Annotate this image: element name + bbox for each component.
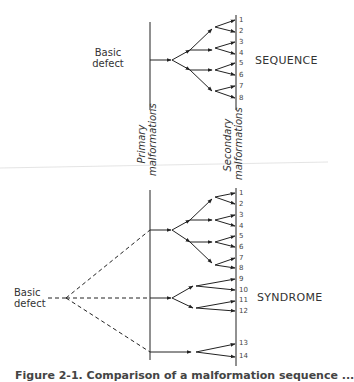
top-outcome-7: 7 <box>239 82 243 90</box>
page-crease <box>0 162 328 168</box>
bottom-outcome-4: 4 <box>239 222 243 230</box>
top-basic-defect-line2: defect <box>86 58 130 69</box>
bottom-outcome-6: 6 <box>239 243 243 251</box>
bottom-outcome-5: 5 <box>239 232 243 240</box>
primary-malformations-label: Primary malformations <box>136 112 158 176</box>
bottom-basic-defect-line1: Basic <box>14 287 46 298</box>
syndrome-tree-c <box>150 344 235 357</box>
top-basic-defect-label: Basic defect <box>86 47 130 69</box>
top-outcome-4: 4 <box>239 49 243 57</box>
top-outcome-1: 1 <box>239 16 243 24</box>
bottom-outcome-1: 1 <box>239 189 243 197</box>
bottom-outcome-7: 7 <box>239 254 243 262</box>
bottom-outcome-11: 11 <box>239 296 248 304</box>
top-outcome-3: 3 <box>239 38 243 46</box>
syndrome-tree-b <box>150 279 235 311</box>
secondary-malformations-label: Secondary malformations <box>222 110 244 180</box>
sequence-label: SEQUENCE <box>255 54 318 67</box>
sequence-tree <box>150 20 235 98</box>
top-outcome-6: 6 <box>239 71 243 79</box>
figure-caption: Figure 2-1. Comparison of a malformation… <box>15 369 354 382</box>
bottom-outcome-9: 9 <box>239 275 243 283</box>
top-outcome-2: 2 <box>239 27 243 35</box>
top-basic-defect-line1: Basic <box>86 47 130 58</box>
syndrome-label: SYNDROME <box>257 291 323 304</box>
bottom-outcome-8: 8 <box>239 264 243 272</box>
bottom-outcome-13: 13 <box>239 339 248 347</box>
bottom-outcome-10: 10 <box>239 286 248 294</box>
primary-label-line2: malformations <box>147 112 158 176</box>
bottom-basic-defect-label: Basic defect <box>14 287 46 309</box>
secondary-label-line2: malformations <box>233 110 244 180</box>
bottom-outcome-2: 2 <box>239 200 243 208</box>
syndrome-tree-a <box>150 193 235 268</box>
bottom-outcome-14: 14 <box>239 352 248 360</box>
bottom-basic-defect-line2: defect <box>14 298 46 309</box>
primary-label-line1: Primary <box>136 112 147 176</box>
bottom-outcome-12: 12 <box>239 307 248 315</box>
basic-defect-dashed-links <box>48 230 150 352</box>
top-outcome-8: 8 <box>239 94 243 102</box>
secondary-label-line1: Secondary <box>222 110 233 180</box>
top-outcome-5: 5 <box>239 59 243 67</box>
bottom-outcome-3: 3 <box>239 211 243 219</box>
